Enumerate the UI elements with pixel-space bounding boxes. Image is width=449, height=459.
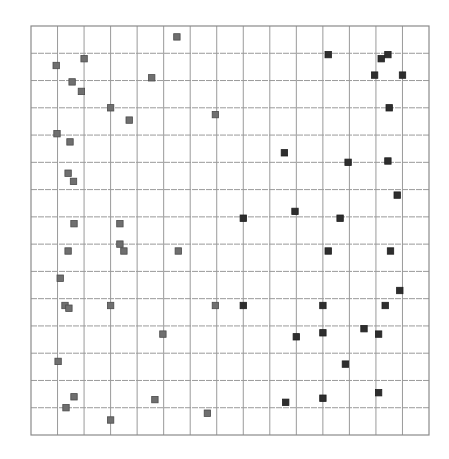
grid-lines [31,26,429,435]
square-marker-icon [78,88,84,94]
square-marker-icon [325,248,331,254]
square-marker-icon [212,302,218,308]
square-marker-icon [240,302,246,308]
square-marker-icon [107,105,113,111]
square-marker-icon [71,394,77,400]
square-marker-icon [65,170,71,176]
square-marker-icon [117,241,123,247]
square-marker-icon [53,62,59,68]
square-marker-icon [240,215,246,221]
square-marker-icon [399,72,405,78]
square-marker-icon [149,75,155,81]
square-marker-icon [121,248,127,254]
square-marker-icon [337,215,343,221]
square-marker-icon [57,275,63,281]
square-marker-icon [67,139,73,145]
square-marker-icon [281,150,287,156]
square-marker-icon [320,302,326,308]
square-marker-icon [69,79,75,85]
square-marker-icon [71,221,77,227]
square-marker-icon [371,72,377,78]
square-marker-icon [283,399,289,405]
square-marker-icon [63,405,69,411]
square-marker-icon [385,51,391,57]
square-marker-icon [81,56,87,62]
square-marker-icon [66,305,72,311]
square-marker-icon [320,330,326,336]
square-marker-icon [292,208,298,214]
square-marker-icon [293,334,299,340]
scatter-chart [0,0,449,459]
square-marker-icon [378,56,384,62]
square-marker-icon [107,417,113,423]
square-marker-icon [117,221,123,227]
square-marker-icon [375,331,381,337]
square-marker-icon [70,178,76,184]
square-marker-icon [394,192,400,198]
square-marker-icon [387,248,393,254]
square-marker-icon [174,34,180,40]
square-marker-icon [126,117,132,123]
square-marker-icon [375,390,381,396]
series-gray [53,34,219,423]
square-marker-icon [361,326,367,332]
square-marker-icon [397,287,403,293]
square-marker-icon [65,248,71,254]
square-marker-icon [175,248,181,254]
square-marker-icon [320,395,326,401]
square-marker-icon [345,159,351,165]
square-marker-icon [55,358,61,364]
square-marker-icon [107,302,113,308]
plot-border [31,26,429,435]
data-points [53,34,406,423]
square-marker-icon [325,51,331,57]
square-marker-icon [382,302,388,308]
square-marker-icon [385,158,391,164]
square-marker-icon [342,361,348,367]
square-marker-icon [160,331,166,337]
square-marker-icon [54,131,60,137]
square-marker-icon [204,410,210,416]
square-marker-icon [212,111,218,117]
square-marker-icon [152,396,158,402]
square-marker-icon [386,105,392,111]
